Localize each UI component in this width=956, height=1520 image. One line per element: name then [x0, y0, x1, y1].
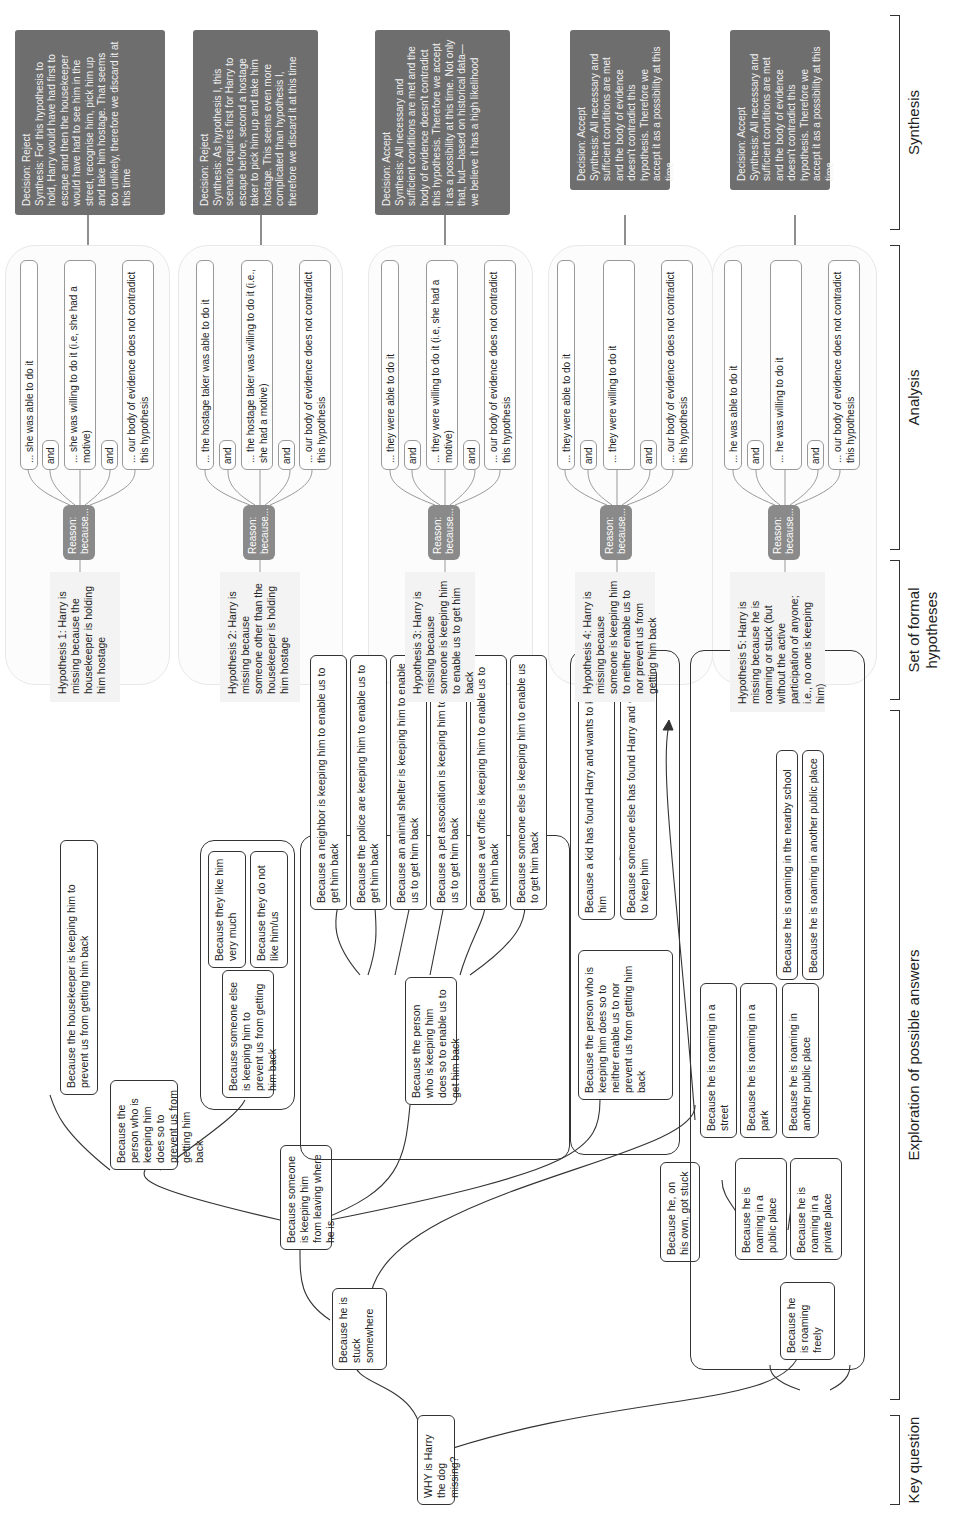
condition-h1-evidence: ... our body of evidence does not contra… — [122, 260, 154, 470]
node-nearby-school: Because he is roaming in the nearby scho… — [776, 750, 798, 980]
bracket-exploration — [890, 710, 900, 1400]
condition-h4-willing: ... they were willing to do it — [603, 260, 635, 470]
label-exploration: Exploration of possible answers — [905, 710, 923, 1400]
bracket-hypotheses — [890, 560, 900, 700]
hypothesis-1: Hypothesis 1: Harry is missing because t… — [50, 572, 120, 702]
node-park: Because he is roaming in a park — [740, 983, 777, 1138]
key-question-box: WHY is Harry the dog missing? — [417, 1415, 455, 1505]
hypothesis-2: Hypothesis 2: Harry is missing because s… — [220, 572, 300, 702]
node-like-him: Because they like him very much — [208, 851, 246, 968]
decision-h4: Decision: Accept — [576, 39, 589, 181]
decision-h3: Decision: Accept — [381, 39, 394, 206]
hypothesis-5: Hypothesis 5: Harry is missing because h… — [730, 572, 825, 712]
reason-h2: Reason: because... — [243, 505, 275, 560]
bracket-analysis — [890, 245, 900, 550]
node-neither: Because the person who is keeping him do… — [578, 950, 673, 1100]
and-h3-1: and — [404, 440, 421, 470]
node-someone-keeping: Because someone is keeping him from leav… — [280, 1145, 332, 1250]
hypothesis-3: Hypothesis 3: Harry is missing because s… — [405, 572, 475, 702]
synthesis-h1: Decision: Reject Synthesis: For this hyp… — [15, 30, 165, 215]
node-enable: Because the person who is keeping him do… — [405, 977, 457, 1105]
node-public-place: Because he is roaming in a public place — [735, 1158, 787, 1260]
and-h2-2: and — [278, 440, 295, 470]
node-street: Because he is roaming in a street — [700, 983, 737, 1138]
and-h1-2: and — [101, 440, 118, 470]
and-h5-2: and — [807, 440, 824, 470]
decision-h2: Decision: Reject — [199, 39, 212, 206]
and-h2-1: and — [219, 440, 236, 470]
reason-h3: Reason: because... — [428, 505, 460, 560]
condition-h5-willing: ... he was willing to do it — [770, 260, 802, 470]
reason-h4: Reason: because... — [600, 505, 632, 560]
node-enable-someone-else: Because someone else is keeping him to e… — [510, 655, 547, 910]
label-synthesis: Synthesis — [905, 15, 923, 230]
node-someone-else-prevent: Because someone else is keeping him to p… — [222, 970, 274, 1098]
label-analysis: Analysis — [905, 245, 923, 550]
and-h4-2: and — [640, 440, 657, 470]
decision-h1: Decision: Reject — [21, 39, 34, 206]
condition-h5-able: ... he was able to do it — [724, 260, 742, 470]
condition-h2-willing: ... the hostage taker was willing to do … — [241, 260, 273, 470]
synthesis-h5: Decision: Accept Synthesis: All necessar… — [730, 30, 830, 190]
and-h5-1: and — [747, 440, 764, 470]
key-question-text: WHY is Harry the dog missing? — [422, 1435, 460, 1498]
and-h4-1: and — [580, 440, 597, 470]
node-enable-police: Because the police are keeping him to en… — [350, 655, 387, 910]
node-dislike-him: Because they do not like him/us — [250, 851, 288, 968]
condition-h4-able: ... they were able to do it — [557, 260, 575, 470]
decision-h5: Decision: Accept — [736, 39, 749, 181]
node-roaming-freely: Because he is roaming freely — [780, 1282, 835, 1360]
condition-h2-able: ... the hostage taker was able to do it — [196, 260, 214, 470]
bracket-key — [890, 1415, 900, 1505]
condition-h1-willing: ... she was willing to do it (i.e, she h… — [64, 260, 96, 470]
bracket-synthesis — [890, 15, 900, 230]
reason-h5: Reason: because... — [768, 505, 800, 560]
condition-h4-evidence: ... our body of evidence does not contra… — [661, 260, 693, 470]
reason-h1: Reason: because... — [63, 505, 95, 560]
hypothesis-4: Hypothesis 4: Harry is missing because s… — [575, 572, 655, 702]
issue-map-diagram: WHY is Harry the dog missing? Because he… — [0, 0, 956, 1520]
node-kid-found: Because a kid has found Harry and wants … — [578, 668, 615, 920]
synthesis-h3: Decision: Accept Synthesis: All necessar… — [375, 30, 510, 215]
synthesis-h4: Decision: Accept Synthesis: All necessar… — [570, 30, 670, 190]
node-stuck-somewhere: Because he is stuck somewhere — [332, 1288, 387, 1370]
node-enable-neighbor: Because a neighbor is keeping him to ena… — [310, 655, 347, 910]
node-another-public-2: Because he is roaming in another public … — [802, 750, 824, 980]
node-another-public: Because he is roaming in another public … — [782, 983, 819, 1138]
node-someone-found: Because someone else has found Harry and… — [620, 668, 657, 920]
condition-h2-evidence: ... our body of evidence does not contra… — [299, 260, 331, 470]
node-private-place: Because he is roaming in a private place — [790, 1158, 842, 1260]
and-h1-1: and — [42, 440, 59, 470]
label-hypotheses: Set of formal hypotheses — [905, 560, 941, 700]
condition-h3-evidence: ... our body of evidence does not contra… — [484, 260, 516, 470]
label-key-question: Key question — [905, 1415, 923, 1505]
node-housekeeper: Because the housekeeper is keeping him t… — [60, 840, 98, 1095]
node-prevent: Because the person who is keeping him do… — [110, 1080, 178, 1170]
condition-h3-able: ... they were able to do it — [381, 260, 399, 470]
condition-h3-willing: ... they were willing to do it (i.e, she… — [426, 260, 458, 470]
and-h3-2: and — [463, 440, 480, 470]
synthesis-h2: Decision: Reject Synthesis: As hypothesi… — [193, 30, 318, 215]
condition-h5-evidence: ... our body of evidence does not contra… — [828, 260, 860, 470]
condition-h1-able: ... she was able to do it — [20, 260, 38, 470]
